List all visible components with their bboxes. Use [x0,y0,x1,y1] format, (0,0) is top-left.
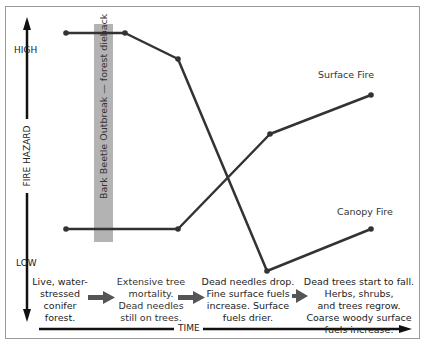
stage-1-description: Live, water- stressed conifer forest. [30,276,90,324]
y-axis-title: FIRE HAZARD [22,119,32,193]
stage-3-description: Dead needles drop. Fine surface fuels in… [199,276,297,324]
canopy-fire-label: Canopy Fire [337,206,393,217]
y-axis-up-arrow-icon [23,17,31,30]
y-axis-high-label: HIGH [14,45,37,55]
bark-beetle-band-label: Bark Beetle Outbreak — forest dieback [98,71,110,199]
surface-fire-label: Surface Fire [318,69,374,80]
stage-2-description: Extensive tree mortality. Dead needles s… [111,276,191,324]
y-axis-low-label: LOW [16,258,37,268]
stage-4-description: Dead trees start to fall. Herbs, shrubs,… [300,276,418,336]
x-axis-title: TIME [175,323,203,333]
